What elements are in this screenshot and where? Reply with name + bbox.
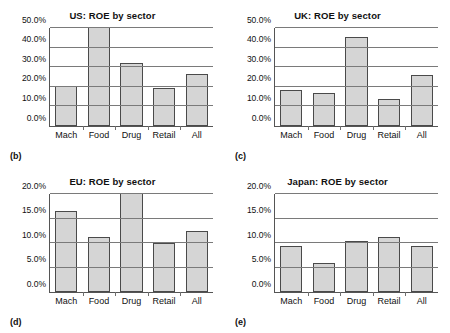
bar-slot bbox=[83, 28, 116, 126]
grid-line bbox=[50, 105, 213, 106]
bar bbox=[378, 237, 400, 292]
y-axis-tick-label: 10.0% bbox=[247, 230, 271, 239]
panel-label: (c) bbox=[235, 151, 246, 161]
y-axis-tick-label: 40.0% bbox=[247, 35, 271, 44]
y-axis-tick-label: 0.0% bbox=[27, 113, 46, 122]
x-axis-tick-label: Mach bbox=[50, 296, 83, 307]
y-axis-tick-label: 15.0% bbox=[22, 206, 46, 215]
bar-slot bbox=[373, 194, 406, 292]
x-axis-labels: MachFoodDrugRetailAll bbox=[50, 296, 213, 307]
grid-line bbox=[50, 86, 213, 87]
bar-slot bbox=[180, 28, 213, 126]
panel-label: (d) bbox=[10, 317, 22, 327]
x-axis-tick-label: Drug bbox=[115, 130, 148, 141]
bar-slot bbox=[405, 194, 438, 292]
grid-line bbox=[50, 125, 213, 126]
bar bbox=[411, 246, 433, 292]
bar-slot bbox=[373, 28, 406, 126]
panel-label: (e) bbox=[235, 317, 246, 327]
y-axis-tick-label: 15.0% bbox=[247, 206, 271, 215]
grid-line bbox=[50, 291, 213, 292]
grid-line bbox=[275, 47, 438, 48]
y-axis-tick-label: 0.0% bbox=[252, 113, 271, 122]
y-axis-tick-label: 5.0% bbox=[252, 255, 271, 264]
grid-line bbox=[275, 105, 438, 106]
y-axis-tick-label: 50.0% bbox=[247, 15, 271, 24]
x-axis-tick-label: Food bbox=[308, 296, 341, 307]
grid-line bbox=[275, 125, 438, 126]
x-axis-labels: MachFoodDrugRetailAll bbox=[275, 296, 438, 307]
bar-slot bbox=[340, 194, 373, 292]
x-axis-tick-label: Food bbox=[83, 130, 116, 141]
x-axis-labels: MachFoodDrugRetailAll bbox=[50, 130, 213, 141]
bar-slot bbox=[180, 194, 213, 292]
grid-line bbox=[50, 193, 213, 194]
x-axis-tick-label: All bbox=[180, 130, 213, 141]
chart-panel-uk: UK: ROE by sector MachFoodDrugRetailAll … bbox=[225, 0, 450, 166]
y-axis-tick-label: 40.0% bbox=[22, 35, 46, 44]
grid-line bbox=[275, 242, 438, 243]
y-axis-tick-label: 20.0% bbox=[247, 74, 271, 83]
x-axis-tick-label: Mach bbox=[275, 130, 308, 141]
bar bbox=[153, 88, 175, 126]
x-axis-tick-label: Mach bbox=[50, 130, 83, 141]
x-axis-tick-label: Retail bbox=[148, 296, 181, 307]
bar-slot bbox=[340, 28, 373, 126]
bar-slot bbox=[50, 194, 83, 292]
grid-line bbox=[50, 66, 213, 67]
grid-line bbox=[275, 291, 438, 292]
bar-slot bbox=[308, 28, 341, 126]
bar-slot bbox=[115, 194, 148, 292]
y-axis-tick-label: 30.0% bbox=[247, 54, 271, 63]
y-axis-tick-label: 20.0% bbox=[22, 181, 46, 190]
grid-line bbox=[275, 218, 438, 219]
chart-panel-us: US: ROE by sector MachFoodDrugRetailAll … bbox=[0, 0, 225, 166]
x-axis-tick-label: Drug bbox=[340, 130, 373, 141]
bar-slot bbox=[148, 194, 181, 292]
bar-group bbox=[275, 28, 438, 126]
grid-line bbox=[275, 27, 438, 28]
grid-line bbox=[50, 267, 213, 268]
bar-slot bbox=[50, 28, 83, 126]
y-axis-tick-label: 10.0% bbox=[247, 94, 271, 103]
plot-area: MachFoodDrugRetailAll 0.0%10.0%20.0%30.0… bbox=[274, 28, 438, 127]
plot-area: MachFoodDrugRetailAll 0.0%10.0%20.0%30.0… bbox=[49, 28, 213, 127]
x-axis-tick-label: Retail bbox=[373, 296, 406, 307]
bar-group bbox=[50, 28, 213, 126]
x-axis-tick-label: Food bbox=[308, 130, 341, 141]
grid-line bbox=[50, 47, 213, 48]
x-axis-tick-label: Drug bbox=[340, 296, 373, 307]
y-axis-tick-label: 0.0% bbox=[27, 279, 46, 288]
y-axis-tick-label: 10.0% bbox=[22, 94, 46, 103]
x-axis-tick-label: Retail bbox=[373, 130, 406, 141]
bar bbox=[55, 211, 77, 292]
y-axis-tick-label: 50.0% bbox=[22, 15, 46, 24]
grid-line bbox=[275, 267, 438, 268]
x-axis-labels: MachFoodDrugRetailAll bbox=[275, 130, 438, 141]
plot-area: MachFoodDrugRetailAll 0.0%5.0%10.0%15.0%… bbox=[49, 194, 213, 293]
y-axis-tick-label: 20.0% bbox=[247, 181, 271, 190]
x-axis-tick-label: Food bbox=[83, 296, 116, 307]
bar-slot bbox=[308, 194, 341, 292]
bar bbox=[120, 63, 142, 127]
x-axis-tick-label: All bbox=[180, 296, 213, 307]
grid-line bbox=[50, 218, 213, 219]
y-axis-tick-label: 0.0% bbox=[252, 279, 271, 288]
bar bbox=[153, 243, 175, 292]
bar-group bbox=[275, 194, 438, 292]
bar bbox=[280, 90, 302, 126]
x-axis-tick-label: Retail bbox=[148, 130, 181, 141]
bar-group bbox=[50, 194, 213, 292]
grid-line bbox=[275, 66, 438, 67]
x-axis-tick-label: All bbox=[405, 296, 438, 307]
bar bbox=[186, 74, 208, 126]
bar bbox=[313, 93, 335, 126]
x-axis-tick-label: Drug bbox=[115, 296, 148, 307]
bar bbox=[120, 194, 142, 292]
bar-slot bbox=[275, 194, 308, 292]
grid-line bbox=[275, 86, 438, 87]
x-axis-tick-label: Mach bbox=[275, 296, 308, 307]
y-axis-tick-label: 10.0% bbox=[22, 230, 46, 239]
bar-slot bbox=[275, 28, 308, 126]
bar-slot bbox=[148, 28, 181, 126]
